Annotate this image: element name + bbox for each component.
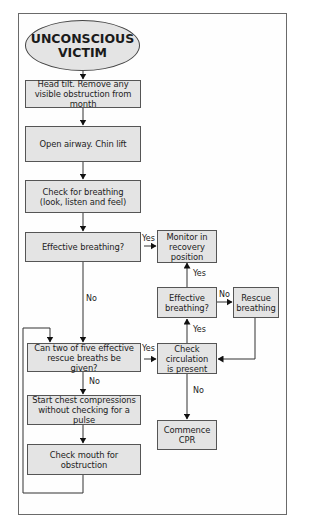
step-open-airway: Open airway. Chin lift [25,126,141,162]
label-no-two-chest: No [89,377,100,386]
step-monitor-recovery: Monitor in recovery position [157,230,217,263]
label-yes-two-circ: Yes [142,344,155,353]
step-check-circulation: Check circulation is present [157,343,217,374]
decision-two-of-five-breaths: Can two of five effective rescue breaths… [27,343,141,372]
step-check-breathing: Check for breathing (look, listen and fe… [25,180,141,213]
step-check-mouth: Check mouth for obstruction [27,444,141,475]
label-yes-eb2-monitor: Yes [193,269,206,278]
decision-effective-breathing-2: Effective breathing? [157,287,217,318]
label-yes-circ-eb2: Yes [193,325,206,334]
start-node-line2: VICTIM [31,46,134,60]
step-start-chest-compressions: Start chest compressions without checkin… [27,395,141,425]
decision-effective-breathing-1: Effective breathing? [25,232,141,262]
label-yes-eb1-monitor: Yes [142,234,155,243]
start-node-line1: UNCONSCIOUS [31,32,134,46]
label-no-eb2-rescue: No [219,290,230,299]
step-head-tilt: Head tilt. Remove any visible obstructio… [25,80,141,108]
step-rescue-breathing: Rescue breathing [233,287,279,318]
step-commence-cpr: Commence CPR [157,420,217,450]
start-node-unconscious-victim: UNCONSCIOUS VICTIM [25,20,140,71]
label-no-circ-cpr: No [193,386,204,395]
label-no-eb1-down: No [86,294,97,303]
